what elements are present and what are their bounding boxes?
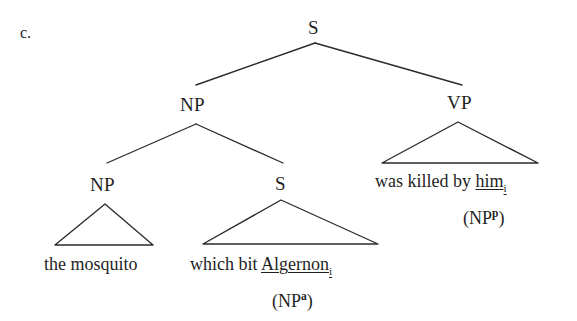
branch-s-to-vp <box>315 43 462 85</box>
branch-s-to-np <box>196 43 315 85</box>
role-patient-open: (NP <box>463 208 492 228</box>
terminal-vp-phrase: was killed by himi <box>375 172 507 194</box>
figure-item-label: c. <box>20 25 31 41</box>
terminal-vp-coindexed-him: him <box>476 171 504 191</box>
terminal-relative-prefix: which bit <box>190 254 261 274</box>
node-label-relative-s: S <box>275 174 286 193</box>
terminal-vp-prefix: was killed by <box>375 171 476 191</box>
role-annotation-agent: (NPa) <box>272 291 313 310</box>
node-label-inner-np: NP <box>90 175 115 194</box>
terminal-relative-clause: which bit Algernoni <box>190 255 332 277</box>
role-annotation-patient: (NPp) <box>463 208 504 227</box>
terminal-the-mosquito: the mosquito <box>44 255 138 273</box>
triangle-np-the-mosquito <box>55 204 153 245</box>
branch-np-to-s <box>196 124 283 163</box>
node-label-root-s: S <box>308 18 319 37</box>
triangle-s-relative-clause <box>203 200 378 244</box>
terminal-vp-index: i <box>504 182 507 194</box>
node-label-subject-np: NP <box>180 95 205 114</box>
node-label-predicate-vp: VP <box>447 93 472 112</box>
role-agent-close: ) <box>307 291 313 311</box>
role-agent-open: (NP <box>272 291 301 311</box>
branch-np-to-np <box>107 124 196 163</box>
terminal-relative-index: i <box>329 265 332 277</box>
role-patient-close: ) <box>498 208 504 228</box>
terminal-relative-coindexed-algernon: Algernon <box>261 254 329 274</box>
syntax-tree-figure: c. S NP VP NP S was killed by himi (NPp)… <box>0 0 577 321</box>
triangle-vp <box>382 122 538 163</box>
